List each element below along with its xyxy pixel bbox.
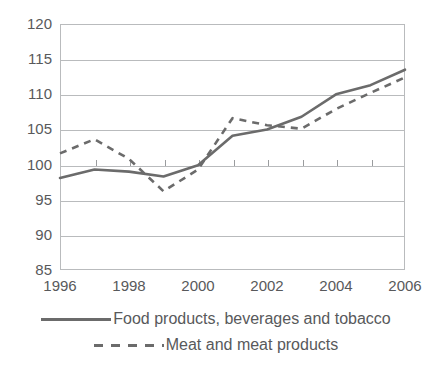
y-axis-tick-label: 85 <box>4 262 52 277</box>
line-chart: 120115110105100959085 199619982000200220… <box>0 0 426 369</box>
y-axis-tick-label: 90 <box>4 227 52 242</box>
x-axis-tick-label: 1996 <box>32 278 88 293</box>
y-axis-tick-label: 95 <box>4 192 52 207</box>
y-axis-tick-label: 105 <box>4 121 52 136</box>
series-layer <box>60 24 405 270</box>
legend: Food products, beverages and tobacco Mea… <box>0 306 426 358</box>
y-axis-tick-label: 100 <box>4 157 52 172</box>
legend-swatch-dashed-line-icon <box>88 339 166 351</box>
y-axis-tick-label: 115 <box>4 51 52 66</box>
series-line-meat-products <box>60 77 405 191</box>
x-axis-tick-label: 1998 <box>101 278 157 293</box>
x-axis-tick-label: 2006 <box>377 278 426 293</box>
legend-label-food-products: Food products, beverages and tobacco <box>113 311 391 327</box>
x-axis-tick-label: 2004 <box>308 278 364 293</box>
legend-swatch-solid-line-icon <box>35 313 113 325</box>
y-axis-tick-label: 120 <box>4 16 52 31</box>
legend-item-food-products: Food products, beverages and tobacco <box>0 306 426 332</box>
y-axis-tick-label: 110 <box>4 86 52 101</box>
legend-item-meat-products: Meat and meat products <box>0 332 426 358</box>
x-axis-tick-label: 2002 <box>239 278 295 293</box>
x-axis-tick-label: 2000 <box>170 278 226 293</box>
series-line-food-products <box>60 70 405 178</box>
legend-label-meat-products: Meat and meat products <box>166 337 339 353</box>
